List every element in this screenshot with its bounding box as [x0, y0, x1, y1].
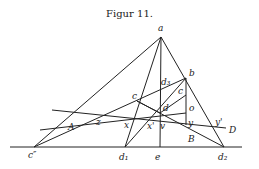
- label-B: B: [187, 134, 195, 144]
- label-d3: d₃: [161, 77, 171, 87]
- label-D: D: [228, 125, 236, 135]
- label-c-prime: c: [132, 91, 137, 101]
- label-b: b: [189, 68, 195, 78]
- label-a: a: [158, 23, 163, 33]
- label-x-prime: x': [147, 121, 155, 131]
- label-x: x: [124, 120, 129, 130]
- geometric-diagram: a b d₃ c c d o y y' D B A z x x' v c″ d₁…: [0, 0, 259, 169]
- label-c: c: [178, 86, 183, 96]
- label-A: A: [67, 122, 75, 132]
- label-d: d: [163, 103, 169, 113]
- label-y: y: [187, 118, 194, 128]
- label-d1: d₁: [119, 152, 128, 162]
- label-c-double-prime: c″: [28, 150, 37, 160]
- label-v: v: [160, 121, 165, 131]
- label-y-prime: y': [214, 117, 223, 127]
- label-z: z: [95, 117, 101, 127]
- label-d2: d₂: [218, 152, 228, 162]
- label-o: o: [189, 103, 195, 113]
- label-e: e: [155, 152, 160, 162]
